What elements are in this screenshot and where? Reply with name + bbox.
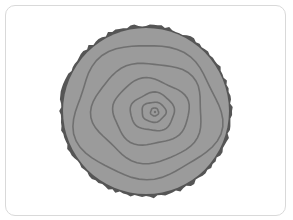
pith-dot (154, 111, 156, 113)
tree-stump-illustration (0, 0, 293, 220)
tree-stump (59, 24, 233, 198)
wood-surface (63, 28, 229, 194)
